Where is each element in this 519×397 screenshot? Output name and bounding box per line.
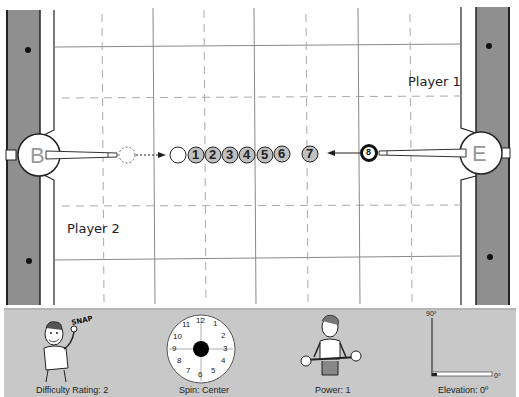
ball-2-number: 2 [209, 147, 216, 162]
diamond-marker [26, 258, 32, 264]
elevation-min-label: 0º [494, 372, 500, 379]
diamond-marker [487, 254, 493, 260]
diamond-marker [486, 43, 492, 49]
elevation-gauge-icon [424, 316, 504, 380]
spin-label: Spin: Center [179, 385, 229, 395]
clock-3: 3 [223, 344, 227, 353]
pocket-b-label: B [30, 143, 45, 169]
player-1-label: Player 1 [408, 74, 461, 89]
pool-table: B E 8 1 2 3 4 5 6 7 Player 1 Player 2 [0, 0, 519, 305]
ghost-ball [119, 147, 135, 163]
power-cartoon-icon [300, 313, 364, 383]
spin-indicator [193, 341, 209, 357]
clock-9: 9 [172, 344, 176, 353]
player-2-label: Player 2 [67, 221, 120, 236]
clock-8: 8 [177, 356, 181, 365]
elevation-label: Elevation: 0º [438, 385, 488, 395]
clock-6: 6 [198, 370, 202, 379]
clock-7: 7 [186, 366, 190, 375]
clock-1: 1 [213, 319, 217, 328]
clock-12: 12 [196, 316, 205, 325]
elevation-cue [432, 372, 492, 376]
clock-11: 11 [182, 320, 190, 329]
pocket-e-label: E [472, 141, 487, 167]
shot-info-panel: SNAP Difficulty Rating: 2 12 1 2 3 4 5 6… [4, 308, 516, 397]
ball-1-number: 1 [192, 147, 199, 162]
ball-4-number: 4 [243, 147, 250, 162]
ball-6-number: 6 [278, 146, 285, 161]
clock-4: 4 [221, 356, 225, 365]
clock-10: 10 [173, 332, 182, 341]
ball-7-number: 7 [306, 146, 313, 161]
elevation-max-label: 90º [426, 310, 436, 317]
power-label: Power: 1 [315, 385, 351, 395]
difficulty-cartoon-icon: SNAP [36, 316, 96, 384]
ball-3-number: 3 [226, 147, 233, 162]
ball-5-number: 5 [261, 147, 268, 162]
clock-2: 2 [221, 331, 225, 340]
table-svg [0, 0, 519, 305]
cue-ball-number: 8 [366, 147, 371, 157]
diamond-marker [25, 47, 31, 53]
difficulty-rating-label: Difficulty Rating: 2 [36, 385, 108, 395]
svg-text:SNAP: SNAP [71, 316, 94, 327]
clock-5: 5 [211, 366, 215, 375]
